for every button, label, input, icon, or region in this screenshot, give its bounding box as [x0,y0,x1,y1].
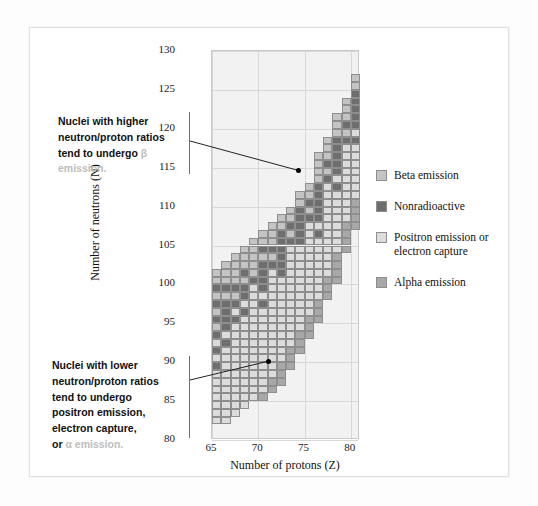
nuclide-cell [351,175,360,183]
x-tick-label: 65 [191,441,231,453]
nuclide-cell [258,269,267,277]
figure-page: 80859095100105110115120125130 65707580 N… [0,0,538,506]
nuclide-cell [268,300,277,308]
legend-item: Nonradioactive [376,199,506,213]
nuclide-cell [258,386,267,394]
nuclide-cell [221,308,230,316]
nuclide-cell [268,370,277,378]
legend-label: Nonradioactive [394,199,465,213]
nuclide-cell [305,284,314,292]
nuclide-cell [351,144,360,152]
nuclide-cell [212,386,221,394]
nuclide-cell [212,331,221,339]
nuclide-cell [314,277,323,285]
x-tick-label: 70 [237,441,277,453]
nuclide-cell [212,308,221,316]
nuclide-cell [231,261,240,269]
nuclide-cell [314,253,323,261]
nuclide-cell [240,354,249,362]
nuclide-cell [212,347,221,355]
nuclide-cell [342,105,351,113]
nuclide-cell [221,401,230,409]
nuclide-cell [286,214,295,222]
nuclide-cell [240,386,249,394]
nuclide-cell [351,183,360,191]
nuclide-cell [314,152,323,160]
nuclide-cell [295,323,304,331]
nuclide-cell [342,113,351,121]
nuclide-cell [332,160,341,168]
nuclide-cell [323,183,332,191]
nuclide-cell [221,292,230,300]
nuclide-cell [342,175,351,183]
legend-item: Positron emission or electron capture [376,230,506,258]
nuclide-cell [258,339,267,347]
nuclide-cell [286,207,295,215]
legend-swatch [376,277,387,288]
nuclide-cell [305,308,314,316]
nuclide-cell [258,284,267,292]
nuclide-cell [323,199,332,207]
nuclide-cell [295,238,304,246]
nuclide-cell [221,331,230,339]
nuclide-cell [277,253,286,261]
nuclide-cell [295,300,304,308]
nuclide-cell [295,316,304,324]
nuclide-cell [249,284,258,292]
nuclide-cell [286,362,295,370]
nuclide-cell [305,316,314,324]
nuclide-cell [295,253,304,261]
nuclide-cell [286,261,295,269]
nuclide-cell [305,207,314,215]
nuclide-cell [295,222,304,230]
nuclide-cells [212,51,358,438]
nuclide-cell [258,261,267,269]
nuclide-cell [286,316,295,324]
legend: Beta emissionNonradioactivePositron emis… [376,168,506,306]
nuclide-cell [332,191,341,199]
nuclide-cell [231,370,240,378]
nuclide-cell [249,354,258,362]
nuclide-cell [249,362,258,370]
nuclide-cell [305,238,314,246]
nuclide-cell [249,386,258,394]
nuclide-cell [212,339,221,347]
nuclide-cell [351,82,360,90]
nuclide-cell [286,339,295,347]
nuclide-cell [249,347,258,355]
nuclide-cell [323,277,332,285]
nuclide-cell [221,370,230,378]
nuclide-cell [231,409,240,417]
nuclide-cell [351,137,360,145]
nuclide-cell [277,308,286,316]
nuclide-cell [295,277,304,285]
nuclide-cell [231,393,240,401]
nuclide-cell [258,230,267,238]
nuclide-cell [249,378,258,386]
nuclide-cell [277,230,286,238]
nuclide-cell [277,261,286,269]
nuclide-cell [231,316,240,324]
nuclide-cell [314,230,323,238]
nuclide-cell [295,331,304,339]
nuclide-cell [268,386,277,394]
nuclide-cell [351,168,360,176]
nuclide-cell [323,222,332,230]
nuclide-cell [277,362,286,370]
nuclide-cell [314,207,323,215]
nuclide-cell [323,284,332,292]
nuclide-cell [286,347,295,355]
nuclide-cell [221,347,230,355]
nuclide-cell [286,222,295,230]
nuclide-cell [249,269,258,277]
nuclide-cell [277,300,286,308]
nuclide-cell [277,331,286,339]
nuclide-cell [314,316,323,324]
annotation-high-line3: tend to undergo [58,147,141,159]
nuclide-cell [277,370,286,378]
nuclide-cell [314,238,323,246]
y-tick-label: 110 [135,199,175,211]
legend-swatch [376,201,387,212]
nuclide-cell [277,277,286,285]
nuclide-cell [231,378,240,386]
